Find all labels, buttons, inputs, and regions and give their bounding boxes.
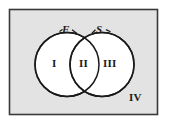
set-label-f: F	[62, 24, 69, 35]
region-label-iii: III	[103, 58, 116, 69]
region-label-iv: IV	[129, 92, 142, 103]
region-label-i: I	[52, 58, 56, 69]
set-label-s: S	[96, 24, 102, 35]
region-label-ii: II	[79, 58, 88, 69]
venn-diagram-figure: F S I II III IV	[0, 0, 169, 124]
